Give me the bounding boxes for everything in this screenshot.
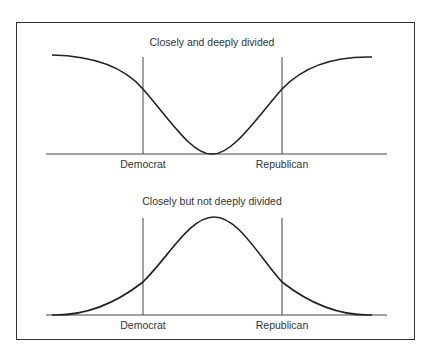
- panel-not-deeply-divided: [46, 217, 387, 315]
- figure-plots: [0, 0, 431, 351]
- panel-deeply-divided: [46, 55, 387, 154]
- upper-distribution-curve: [52, 55, 372, 154]
- upper-republican-label: Republican: [256, 158, 309, 170]
- lower-republican-label: Republican: [256, 319, 309, 331]
- lower-distribution-curve: [52, 217, 372, 315]
- lower-democrat-label: Democrat: [120, 319, 166, 331]
- upper-panel-title: Closely and deeply divided: [150, 36, 275, 48]
- upper-democrat-label: Democrat: [120, 158, 166, 170]
- lower-panel-title: Closely but not deeply divided: [142, 195, 282, 207]
